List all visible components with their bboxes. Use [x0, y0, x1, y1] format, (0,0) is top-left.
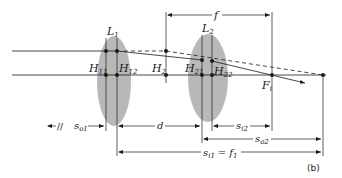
thick-lens-system-diagram: L1 L2 H11 H12 H2 H21 H22 Fi f // so1 d s…: [0, 0, 342, 178]
lens-l2: [188, 34, 228, 122]
panel-label: (b): [307, 163, 320, 173]
d-label: d: [157, 120, 163, 131]
lens-l1-label: L1: [106, 25, 119, 39]
h2-label: H2: [151, 62, 167, 76]
h12-label: H12: [118, 62, 138, 76]
so1-break-mark: //: [57, 122, 64, 132]
lens-l1: [97, 36, 131, 126]
fi-label: Fi: [261, 79, 272, 93]
lens-l2-label: L2: [201, 22, 214, 36]
h22-label: H22: [213, 65, 233, 79]
ray-after-l1: [117, 51, 202, 60]
